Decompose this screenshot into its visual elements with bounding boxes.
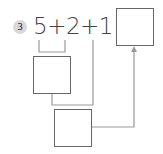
answer-box[interactable] xyxy=(116,8,154,46)
bracket-5-2 xyxy=(39,40,65,52)
partial-sum-box[interactable] xyxy=(33,56,71,94)
arrow-up-icon xyxy=(131,46,137,52)
connector-final-to-answer xyxy=(91,51,134,127)
final-sum-box[interactable] xyxy=(54,109,92,147)
